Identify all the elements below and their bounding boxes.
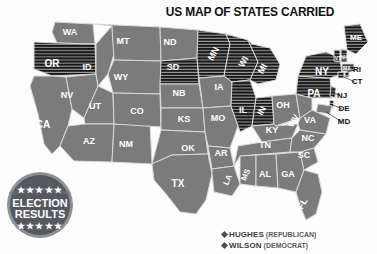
state-label-nd: ND [164, 37, 177, 47]
badge-stars-bottom: ★★★★★ [17, 221, 63, 231]
state-label-me: ME [350, 33, 363, 42]
state-md[interactable] [316, 104, 332, 114]
state-label-va: VA [304, 115, 316, 125]
state-label-ri: RI [353, 65, 361, 74]
state-label-ar: AR [215, 148, 228, 158]
state-label-ok: OK [181, 143, 195, 153]
state-label-sc: SC [298, 150, 311, 160]
state-label-ca: CA [36, 119, 50, 130]
state-label-wy: WY [114, 72, 129, 82]
state-shapes-group [30, 22, 368, 220]
election-results-badge: ★★★★★ ELECTION RESULTS ★★★★★ [6, 171, 74, 239]
state-label-mt: MT [117, 36, 130, 46]
state-label-il: IL [239, 105, 248, 115]
state-ri[interactable] [345, 72, 349, 77]
state-label-co: CO [130, 106, 144, 116]
state-label-nc: NC [302, 133, 315, 143]
state-label-nm: NM [119, 139, 133, 149]
state-nj[interactable] [330, 86, 336, 98]
legend-candidate-name: HUGHES [229, 230, 264, 239]
state-label-mo: MO [211, 113, 226, 123]
state-label-ks: KS [178, 114, 191, 124]
state-ct[interactable] [338, 72, 344, 78]
state-label-az: AZ [83, 136, 95, 146]
state-label-ky: KY [266, 125, 279, 135]
state-label-md: MD [338, 117, 351, 126]
diamond-marker [221, 242, 228, 249]
state-label-ia: IA [215, 82, 225, 92]
state-label-ga: GA [281, 169, 295, 179]
state-label-pa: PA [307, 88, 320, 99]
legend-candidate-name: WILSON [229, 241, 262, 250]
state-label-nh: NH [340, 54, 348, 60]
badge-line2: RESULTS [15, 208, 66, 220]
state-label-nv: NV [61, 90, 74, 100]
legend-party-label: (REPUBLICAN) [266, 231, 317, 238]
state-label-tn: TN [259, 140, 271, 150]
legend-party-label: (DEMOCRAT) [264, 242, 309, 249]
state-label-ma: MA [343, 65, 351, 71]
state-label-wa: WA [63, 27, 78, 37]
diamond-marker [221, 231, 228, 238]
state-label-oh: OH [276, 100, 290, 110]
badge-stars-top: ★★★★★ [17, 185, 63, 195]
state-label-sd: SD [167, 62, 180, 72]
map-legend: HUGHES(REPUBLICAN)WILSON(DEMOCRAT) [222, 230, 316, 252]
state-label-de: DE [338, 104, 350, 113]
state-label-al: AL [259, 169, 271, 179]
state-label-or: OR [45, 58, 61, 69]
state-label-ny: NY [315, 66, 329, 77]
state-label-tx: TX [172, 178, 185, 189]
state-label-id: ID [83, 62, 93, 72]
state-label-ct: CT [352, 77, 363, 86]
state-label-ut: UT [89, 101, 101, 111]
legend-entry-hughes[interactable]: HUGHES(REPUBLICAN) [222, 230, 316, 239]
legend-entry-wilson[interactable]: WILSON(DEMOCRAT) [222, 241, 316, 250]
state-label-nj: NJ [337, 91, 347, 100]
state-label-nb: NB [173, 88, 186, 98]
